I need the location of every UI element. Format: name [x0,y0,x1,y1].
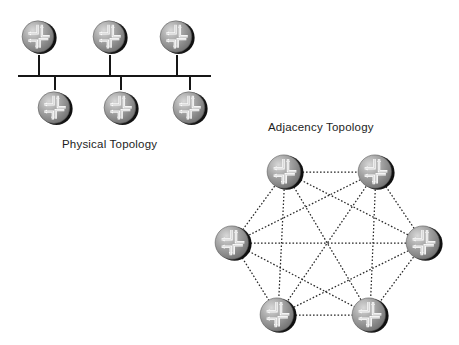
adjacency-link [386,186,414,228]
physical-router-node[interactable] [104,92,139,125]
physical-router-group [22,21,208,125]
router-icon [38,92,73,125]
physical-link-group [18,55,211,90]
diagram-canvas: Physical Topology Adjacency Topology [0,0,459,345]
physical-router-node[interactable] [160,21,195,54]
router-icon [215,226,251,261]
router-icon [352,298,388,333]
adjacency-router-node[interactable] [267,155,303,190]
physical-topology-caption: Physical Topology [62,138,157,150]
adjacency-link [243,186,274,229]
adjacency-link [248,251,354,307]
physical-router-node[interactable] [93,21,128,54]
physical-router-node[interactable] [38,92,73,125]
physical-router-node[interactable] [173,92,208,125]
adjacency-router-group [215,155,442,333]
router-icon [104,92,139,125]
adjacency-link [249,180,361,235]
adjacency-router-node[interactable] [358,155,394,190]
adjacency-router-node[interactable] [260,298,296,333]
adjacency-router-node[interactable] [215,226,251,261]
adjacency-router-node[interactable] [406,226,442,261]
router-icon [93,21,128,54]
router-icon [358,155,394,190]
adjacency-link [294,251,409,308]
router-icon [267,155,303,190]
adjacency-link-group [242,172,414,315]
adjacency-link [381,257,414,301]
router-icon [260,298,296,333]
adjacency-router-node[interactable] [352,298,388,333]
network-topology-diagram [0,0,459,345]
adjacency-topology-caption: Adjacency Topology [268,121,374,133]
router-icon [160,21,195,54]
router-icon [406,226,442,261]
adjacency-link [242,258,268,300]
router-icon [22,21,57,54]
router-icon [173,92,208,125]
physical-router-node[interactable] [22,21,57,54]
adjacency-link [301,180,409,235]
